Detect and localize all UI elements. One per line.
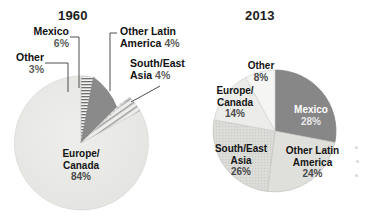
slice-label-other-2013: Other 8%	[236, 60, 286, 83]
slice-label-other-latin-america-2013: Other Latin America 24%	[275, 145, 350, 180]
slice-label-sea-2013-pct: 26%	[207, 166, 275, 178]
slice-label-ec-2013-line1: Europe/	[204, 85, 266, 97]
slice-label-ola-2013-line2: America	[275, 157, 350, 169]
figure-root: 1960	[0, 0, 378, 222]
slice-label-europe-canada-2013: Europe/ Canada 14%	[204, 85, 266, 120]
slice-label-sea-2013-line2: Asia	[207, 155, 275, 167]
scan-artifact-dot	[355, 146, 358, 149]
slice-label-ec-2013-pct: 14%	[204, 108, 266, 120]
slice-label-oth-2013-label: Other	[236, 60, 286, 72]
scan-artifact-dot	[356, 160, 359, 163]
slice-label-south-east-asia-2013: South/East Asia 26%	[207, 143, 275, 178]
slice-label-sea-2013-line1: South/East	[207, 143, 275, 155]
slice-label-mx-2013-pct: 28%	[281, 116, 341, 128]
slice-label-ola-2013-line1: Other Latin	[275, 145, 350, 157]
scan-artifact-dot	[355, 174, 358, 177]
slice-label-mexico-2013: Mexico 28%	[281, 104, 341, 127]
slice-label-ec-2013-line2: Canada	[204, 97, 266, 109]
slice-label-oth-2013-pct: 8%	[236, 72, 286, 84]
slice-label-mx-2013-label: Mexico	[281, 104, 341, 116]
slice-label-ola-2013-pct: 24%	[275, 168, 350, 180]
